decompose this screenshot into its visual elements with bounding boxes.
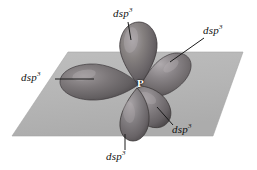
orbital-label-upper-right: dsp3 (203, 25, 223, 36)
orbital-label-lower-right-sup: 3 (188, 122, 192, 130)
orbital-label-lower-right-text: dsp (172, 123, 188, 135)
orbital-label-top: dsp3 (113, 8, 133, 19)
orbital-label-left-sup: 3 (37, 70, 41, 78)
orbital-label-upper-right-sup: 3 (219, 23, 223, 31)
orbital-label-top-text: dsp (113, 7, 129, 19)
central-atom-label: P (137, 78, 144, 89)
orbital-diagram-figure: P dsp3 dsp3 dsp3 dsp3 dsp3 (0, 0, 257, 170)
orbital-label-bottom: dsp3 (106, 151, 126, 162)
orbital-label-top-sup: 3 (129, 6, 133, 14)
orbital-label-upper-right-text: dsp (203, 24, 219, 36)
orbital-label-left-text: dsp (21, 71, 37, 83)
orbital-label-lower-right: dsp3 (172, 124, 192, 135)
orbital-label-bottom-text: dsp (106, 150, 122, 162)
orbital-label-left: dsp3 (21, 72, 41, 83)
orbital-label-bottom-sup: 3 (122, 149, 126, 157)
